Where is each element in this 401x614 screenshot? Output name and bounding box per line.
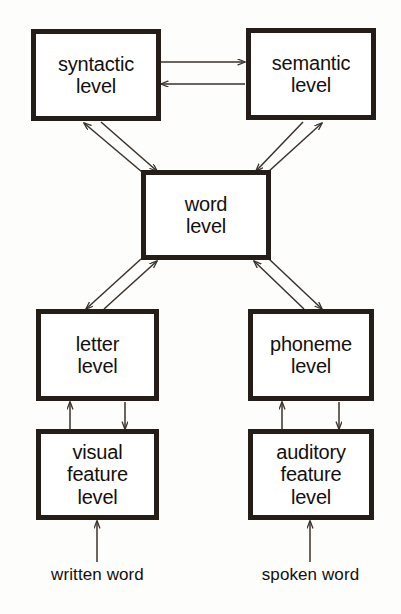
node-word-level[interactable]: word level — [141, 170, 271, 260]
input-label-spoken-word: spoken word — [229, 565, 392, 585]
node-phoneme-level-label: phoneme level — [268, 333, 354, 378]
node-letter-level-label: letter level — [74, 333, 121, 378]
node-semantic-level[interactable]: semantic level — [246, 28, 376, 120]
node-syntactic-level[interactable]: syntactic level — [31, 29, 161, 121]
node-phoneme-level[interactable]: phoneme level — [248, 309, 374, 401]
arrow-phoneme-to-word — [254, 261, 304, 309]
node-syntactic-level-label: syntactic level — [56, 53, 136, 98]
arrow-syntactic-to-word — [101, 122, 157, 171]
input-label-written-word: written word — [16, 565, 179, 585]
node-semantic-level-label: semantic level — [270, 52, 352, 97]
node-visual-feature-level[interactable]: visual feature level — [36, 429, 159, 520]
arrow-word-to-letter — [86, 259, 141, 309]
arrow-semantic-to-word — [256, 122, 303, 171]
node-auditory-feature-level[interactable]: auditory feature level — [248, 429, 374, 520]
node-letter-level[interactable]: letter level — [36, 309, 159, 401]
arrow-word-to-phoneme — [269, 259, 322, 309]
arrow-word-to-syntactic — [84, 123, 142, 172]
arrow-word-to-semantic — [268, 123, 322, 172]
arrow-letter-to-word — [104, 261, 157, 309]
diagram-canvas: syntactic level semantic level word leve… — [0, 0, 401, 614]
node-visual-feature-level-label: visual feature level — [65, 441, 130, 508]
node-word-level-label: word level — [183, 193, 230, 238]
node-auditory-feature-level-label: auditory feature level — [274, 441, 348, 508]
